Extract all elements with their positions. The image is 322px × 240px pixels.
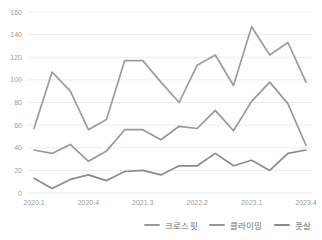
search-trend-line-chart: 0204060801001201401602020.12020.42021.32… <box>0 0 322 240</box>
legend-label: 풋살 <box>295 219 311 231</box>
legend-dash-icon <box>209 224 225 226</box>
y-axis-tick-label: 140 <box>10 31 22 38</box>
series-line-futsal <box>34 150 306 189</box>
legend-label: 크로스핏 <box>165 219 198 231</box>
y-axis-tick-label: 100 <box>10 76 22 83</box>
chart-plot-area: 0204060801001201401602020.12020.42021.32… <box>0 0 322 216</box>
x-axis-tick-label: 2022.2 <box>186 199 208 206</box>
x-axis-tick-label: 2023.4 <box>295 199 317 206</box>
x-axis-tick-label: 2021.3 <box>132 199 154 206</box>
y-axis-tick-label: 0 <box>18 190 22 197</box>
series-line-climbing <box>34 82 306 161</box>
series-line-crossfit <box>34 27 306 130</box>
y-axis-tick-label: 80 <box>14 99 22 106</box>
legend-item-crossfit[interactable]: 크로스핏 <box>144 219 198 231</box>
x-axis-tick-label: 2020.4 <box>78 199 100 206</box>
legend-label: 클라이밍 <box>230 219 263 231</box>
y-axis-tick-label: 60 <box>14 122 22 129</box>
y-axis-tick-label: 20 <box>14 167 22 174</box>
x-axis-tick-label: 2020.1 <box>23 199 45 206</box>
y-axis-tick-label: 160 <box>10 9 22 16</box>
x-axis-tick-label: 2023.1 <box>241 199 263 206</box>
legend-dash-icon <box>274 224 290 226</box>
chart-legend: 크로스핏클라이밍풋살 <box>144 219 311 231</box>
y-axis-tick-label: 120 <box>10 54 22 61</box>
y-axis-tick-label: 40 <box>14 144 22 151</box>
legend-item-futsal[interactable]: 풋살 <box>274 219 311 231</box>
legend-item-climbing[interactable]: 클라이밍 <box>209 219 263 231</box>
legend-dash-icon <box>144 224 160 226</box>
